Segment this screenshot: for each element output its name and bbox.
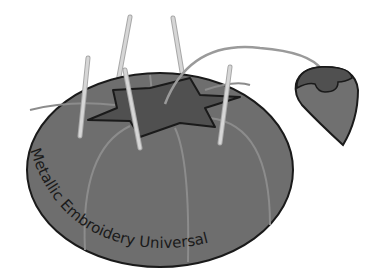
pincushion-illustration: Metallic Embroidery Universal [0,0,386,279]
strawberry-emery [296,67,358,145]
